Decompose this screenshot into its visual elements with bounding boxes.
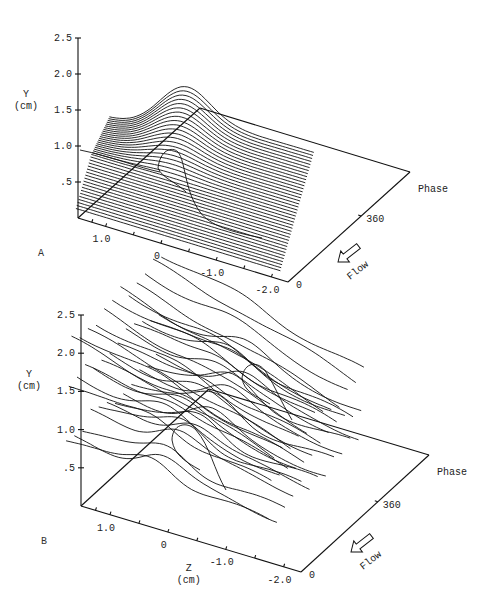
- streamline: [84, 181, 289, 243]
- z-tick: [110, 512, 111, 515]
- phase-tick: [375, 501, 378, 502]
- panel-b-chart: 2.52.01.51.0.5Y(cm)1.00-1.0-2.0Z(cm)0360…: [17, 257, 467, 586]
- z-tick: [95, 507, 96, 510]
- streamlines-b: [66, 257, 364, 522]
- z-tick-label: 1.0: [97, 523, 115, 534]
- phase-tick-label: 0: [296, 280, 302, 291]
- streamline: [82, 187, 287, 249]
- z-tick: [284, 564, 285, 567]
- streamline: [88, 329, 291, 449]
- streamline: [80, 193, 285, 255]
- phase-tick-label: 0: [309, 570, 315, 581]
- z-tick: [106, 223, 107, 226]
- z-tick: [216, 257, 217, 260]
- phase-axis-title: Phase: [418, 184, 448, 195]
- z-tick-label: -1.0: [210, 557, 234, 568]
- y-axis-unit: (cm): [14, 101, 38, 112]
- z-tick-label: 0: [161, 540, 167, 551]
- streamline: [85, 365, 288, 469]
- z-tick-label: -2.0: [255, 285, 279, 296]
- figure: 2.52.01.51.0.5Y(cm)1.00-1.0-2.00360Phase…: [0, 0, 478, 610]
- streamline: [85, 178, 289, 240]
- y-axis-title: Y: [23, 89, 29, 100]
- z-tick-label: -1.0: [200, 268, 224, 279]
- z-tick: [197, 538, 198, 541]
- phase-axis: [301, 455, 429, 572]
- y-tick-label: 2.5: [57, 310, 75, 321]
- z-tick: [139, 520, 140, 523]
- streamline: [134, 324, 337, 422]
- z-axis-title: Z: [186, 563, 192, 574]
- phase-tick-label: 360: [383, 500, 401, 511]
- streamline: [69, 386, 272, 480]
- y-tick-label: 1.5: [54, 105, 72, 116]
- y-tick-label: 2.0: [54, 69, 72, 80]
- streamline: [74, 436, 277, 523]
- z-tick: [168, 529, 169, 532]
- z-tick: [271, 274, 272, 277]
- y-axis-unit: (cm): [17, 381, 41, 392]
- y-tick-label: 2.5: [54, 33, 72, 44]
- z-tick: [244, 266, 245, 269]
- z-tick-label: -2.0: [268, 575, 292, 586]
- streamline: [81, 190, 286, 252]
- y-tick-label: 1.5: [57, 386, 75, 397]
- y-axis-title: Y: [26, 369, 32, 380]
- streamline: [142, 321, 345, 415]
- panel-a-chart: 2.52.01.51.0.5Y(cm)1.00-1.0-2.00360Phase…: [14, 33, 448, 296]
- streamline: [161, 257, 364, 367]
- streamline: [86, 172, 291, 234]
- streamline: [79, 199, 283, 261]
- panel-label: A: [38, 248, 44, 259]
- streamlines-a: [76, 87, 314, 271]
- phase-axis-title: Phase: [437, 467, 467, 478]
- z-tick: [161, 240, 162, 243]
- z-tick-label: 1.0: [93, 234, 111, 245]
- y-tick-label: 1.0: [54, 141, 72, 152]
- streamline: [145, 274, 348, 390]
- z-tick: [189, 249, 190, 252]
- z-tick: [92, 219, 93, 222]
- phase-tick: [358, 215, 361, 216]
- y-tick-label: 1.0: [57, 425, 75, 436]
- streamline: [87, 169, 292, 231]
- phase-axis: [288, 172, 410, 282]
- z-tick: [255, 555, 256, 558]
- streamline: [90, 160, 295, 222]
- panel-label: B: [41, 536, 47, 547]
- y-tick-label: .5: [60, 177, 72, 188]
- z-axis-unit: (cm): [177, 575, 201, 586]
- streamline: [91, 157, 296, 219]
- y-tick-label: .5: [63, 463, 75, 474]
- phase-tick-label: 360: [366, 214, 384, 225]
- y-tick-label: 2.0: [57, 348, 75, 359]
- z-tick: [133, 232, 134, 235]
- z-tick: [226, 546, 227, 549]
